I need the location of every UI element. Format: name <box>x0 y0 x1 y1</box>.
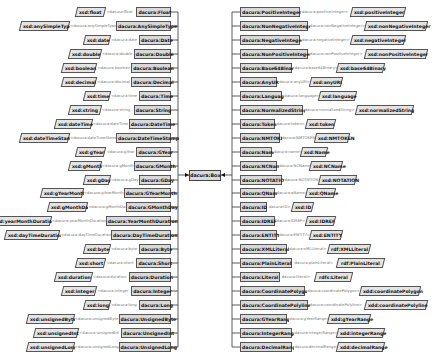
xsd-type-node[interactable]: xdd:integerRange <box>336 328 385 338</box>
property-label: dacura:plainLiteral> <box>294 260 333 266</box>
right-row: dacura:PlainLiteraldacura:plainLiteral>r… <box>0 258 412 269</box>
dacura-class-node[interactable]: dacura:Literal <box>240 272 280 282</box>
right-row: dacura:DecimalRangedacura:decimalRange>x… <box>0 342 412 353</box>
xsd-type-node[interactable]: xsd:base64Binary <box>336 63 385 73</box>
property-label: dacura:negativeInteger> <box>302 37 350 43</box>
dacura-class-node[interactable]: dacura:QName <box>240 188 275 198</box>
xsd-type-node[interactable]: xsd:ENTITY <box>309 230 343 240</box>
dacura-class-node[interactable]: dacura:NonPositiveInteger <box>240 49 308 59</box>
dacura-class-node[interactable]: dacura:PlainLiteral <box>240 258 292 268</box>
dacura-class-node[interactable]: dacura:NegativeInteger <box>240 35 300 45</box>
xsd-type-node[interactable]: xsd:NMTOKEN <box>313 133 350 143</box>
xsd-type-node[interactable]: rdfs:Literal <box>313 272 352 282</box>
dacura-class-node[interactable]: dacura:Language <box>240 91 282 101</box>
right-row: dacura:CoordinatePolygondacura:coordinat… <box>0 286 412 297</box>
right-row: dacura:QNamedacura:qName>xsd:QName <box>0 188 412 199</box>
xsd-type-node[interactable]: xdd:gYearRange <box>327 314 371 324</box>
xsd-type-node[interactable]: rdf:PlainLiteral <box>336 258 385 268</box>
dacura-class-node[interactable]: dacura:NOTATION <box>240 175 282 185</box>
dacura-class-node[interactable]: dacura:NormalizedString <box>240 105 303 115</box>
dacura-class-node[interactable]: dacura:ID <box>240 202 267 212</box>
property-label: dacura:language> <box>284 93 319 99</box>
right-row: dacura:NormalizedStringdacura:normalized… <box>0 105 412 116</box>
dacura-class-node[interactable]: dacura:IntegerRange <box>240 328 292 338</box>
dacura-class-node[interactable]: dacura:CoordinatePolygon <box>240 286 305 296</box>
dacura-class-node[interactable]: dacura:ENTITY <box>240 230 277 240</box>
right-row: dacura:Languagedacura:language>xsd:langu… <box>0 91 412 102</box>
right-row: dacura:ENTITYdacura:ENTITY>xsd:ENTITY <box>0 230 412 241</box>
property-label: dacura:NOTATION> <box>284 177 321 183</box>
xsd-type-node[interactable]: xsd:QName <box>304 188 335 198</box>
property-label: dacura:ID> <box>269 204 291 210</box>
right-row: dacura:NegativeIntegerdacura:negativeInt… <box>0 35 412 46</box>
dacura-class-node[interactable]: dacura:PositiveInteger <box>240 7 300 17</box>
property-label: dacura:qName> <box>277 190 308 196</box>
property-label: dacura:xMLLiteral> <box>289 246 326 252</box>
property-label: dacura:base64Binary> <box>294 65 338 71</box>
property-label: dacura:nonNegativeInteger> <box>310 23 365 29</box>
property-label: dacura:coordinatePolyline> <box>310 302 362 308</box>
xsd-type-node[interactable]: xsd:normalizedString <box>354 105 413 115</box>
center-node-box[interactable]: dacura:Box <box>189 170 221 181</box>
property-label: dacura:anyURI> <box>279 79 310 85</box>
property-label: dacura:token> <box>277 121 305 127</box>
right-row: dacura:NonNegativeIntegerdacura:nonNegat… <box>0 21 412 32</box>
property-label: dacura:ENTITY> <box>279 232 310 238</box>
xsd-type-node[interactable]: xsd:negativeInteger <box>350 35 407 45</box>
right-row: dacura:PositiveIntegerdacura:positiveInt… <box>0 7 412 18</box>
xsd-type-node[interactable]: xsd:NOTATION <box>318 175 357 185</box>
property-label: dacura:gYearRange> <box>289 316 329 322</box>
dacura-class-node[interactable]: dacura:CoordinatePolyline <box>240 300 308 310</box>
dacura-class-node[interactable]: dacura:NonNegativeInteger <box>240 21 308 31</box>
property-label: dacura:decimalRange> <box>294 344 339 350</box>
xsd-type-node[interactable]: xdd:coordinatePolyline <box>364 300 429 310</box>
right-row: dacura:IntegerRangedacura:integerRange>x… <box>0 328 412 339</box>
right-row: dacura:AnyURIdacura:anyURI>xsd:anyURI <box>0 77 412 88</box>
right-row: dacura:NMTOKENdacura:NMTOKEN>xsd:NMTOKEN <box>0 133 412 144</box>
dacura-class-node[interactable]: dacura:IDREF <box>240 216 275 226</box>
xsd-type-node[interactable]: xsd:anyURI <box>309 77 343 87</box>
dacura-class-node[interactable]: dacura:DecimalRange <box>240 342 292 352</box>
dacura-class-node[interactable]: dacura:GYearRange <box>240 314 287 324</box>
property-label: dacura:name> <box>274 149 302 155</box>
property-label: dacura:coordinatePolygon> <box>307 288 360 294</box>
property-label: dacura:literal> <box>282 274 310 280</box>
right-row: dacura:IDdacura:ID>xsd:ID <box>0 202 412 213</box>
dacura-class-node[interactable]: dacura:Token <box>240 119 275 129</box>
right-row: dacura:NonPositiveIntegerdacura:nonPosit… <box>0 49 412 60</box>
xsd-type-node[interactable]: rdf:XMLLiteral <box>327 244 371 254</box>
xsd-type-node[interactable]: xsd:language <box>318 91 357 101</box>
xsd-type-node[interactable]: xdd:decimalRange <box>336 342 385 352</box>
right-row: dacura:Literaldacura:literal>rdfs:Litera… <box>0 272 412 283</box>
right-row: dacura:Namedacura:name>xsd:Name <box>0 147 412 158</box>
dacura-class-node[interactable]: dacura:Name <box>240 147 272 157</box>
right-row: dacura:XMLLiteraldacura:xMLLiteral>rdf:X… <box>0 244 412 255</box>
right-row: dacura:GYearRangedacura:gYearRange>xdd:g… <box>0 314 412 325</box>
property-label: dacura:normalizedString> <box>305 107 355 113</box>
property-label: dacura:integerRange> <box>294 330 337 336</box>
xsd-type-node[interactable]: xsd:IDREF <box>304 216 335 226</box>
right-row: dacura:IDREFdacura:IDREF>xsd:IDREF <box>0 216 412 227</box>
dacura-class-node[interactable]: dacura:NCName <box>240 161 277 171</box>
xsd-type-node[interactable]: xsd:Name <box>300 147 329 157</box>
xsd-type-node[interactable]: xdd:coordinatePolygon <box>359 286 421 296</box>
right-row: dacura:Base64Binarydacura:base64Binary>x… <box>0 63 412 74</box>
right-row: dacura:CoordinatePolylinedacura:coordina… <box>0 300 412 311</box>
xsd-type-node[interactable]: xsd:NCName <box>309 161 343 171</box>
property-label: dacura:positiveInteger> <box>302 9 348 15</box>
xsd-type-node[interactable]: xsd:positiveInteger <box>350 7 407 17</box>
xsd-type-node[interactable]: xsd:ID <box>291 202 315 212</box>
property-label: dacura:nonPositiveInteger> <box>310 51 363 57</box>
xsd-type-node[interactable]: xsd:nonNegativeInteger <box>364 21 429 31</box>
property-label: dacura:NMTOKEN> <box>282 135 319 141</box>
dacura-class-node[interactable]: dacura:XMLLiteral <box>240 244 287 254</box>
dacura-class-node[interactable]: dacura:AnyURI <box>240 77 277 87</box>
dacura-class-node[interactable]: dacura:Base64Binary <box>240 63 292 73</box>
property-label: dacura:IDREF> <box>277 218 306 224</box>
xsd-type-node[interactable]: xsd:nonPositiveInteger <box>364 49 429 59</box>
dacura-class-node[interactable]: dacura:NMTOKEN <box>240 133 280 143</box>
right-row: dacura:Tokendacura:token>xsd:token <box>0 119 412 130</box>
xsd-type-node[interactable]: xsd:token <box>304 119 335 129</box>
